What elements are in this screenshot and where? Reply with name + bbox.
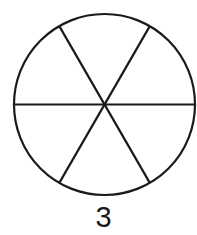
divided-circle-diagram [0,0,197,235]
figure-label: 3 [0,201,197,233]
